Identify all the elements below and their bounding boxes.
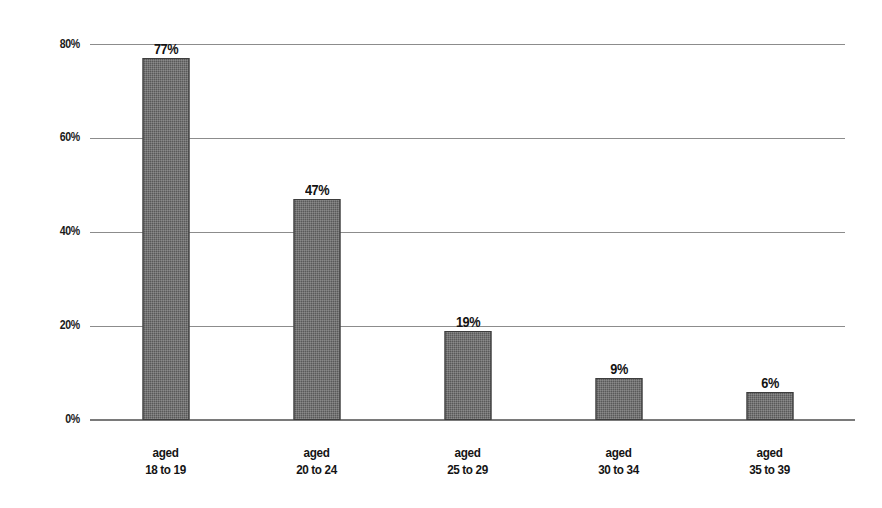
x-axis-label-line1: aged (551, 444, 687, 461)
bar-aged-35-to-39[interactable] (746, 392, 793, 420)
bar-slot-aged-20-to-24: 47% (241, 44, 392, 420)
x-axis-label-line1: aged (400, 444, 536, 461)
x-axis-label-line2: 18 to 19 (98, 461, 234, 478)
x-axis-label-aged-35-to-39: aged 35 to 39 (694, 444, 845, 478)
bar-value-text: 47% (305, 181, 329, 198)
bar-slot-aged-25-to-29: 19% (392, 44, 543, 420)
bar-value-label-aged-18-to-19: 77% (151, 40, 179, 57)
x-axis: aged 18 to 19 aged 20 to 24 aged 25 to 2… (90, 444, 845, 494)
y-axis-tick-label-80: 80% (36, 37, 80, 51)
y-axis-tick-label-60: 60% (36, 130, 80, 144)
bars-layer: 77% 47% 19% 9% 6% (90, 44, 845, 420)
bar-chart: 80% 60% 40% 20% 0% 77% 47% 19% (0, 0, 882, 508)
x-axis-label-aged-25-to-29: aged 25 to 29 (392, 444, 543, 478)
bar-aged-20-to-24[interactable] (293, 199, 340, 420)
y-axis-tick-label-0: 0% (36, 412, 80, 426)
x-axis-label-line2: 30 to 34 (551, 461, 687, 478)
bar-value-text: 6% (761, 374, 778, 391)
x-axis-label-line2: 25 to 29 (400, 461, 536, 478)
y-axis-tick-label-40: 40% (36, 224, 80, 238)
y-axis-tick-label-20: 20% (36, 318, 80, 332)
bar-value-label-aged-20-to-24: 47% (302, 181, 330, 198)
x-axis-label-line2: 35 to 39 (702, 461, 838, 478)
x-axis-label-aged-30-to-34: aged 30 to 34 (543, 444, 694, 478)
bar-slot-aged-35-to-39: 6% (694, 44, 845, 420)
x-axis-label-line1: aged (249, 444, 385, 461)
bar-slot-aged-18-to-19: 77% (90, 44, 241, 420)
bar-aged-25-to-29[interactable] (444, 331, 491, 420)
bar-value-text: 9% (610, 360, 627, 377)
x-axis-label-line1: aged (702, 444, 838, 461)
bar-aged-30-to-34[interactable] (595, 378, 642, 420)
bar-aged-18-to-19[interactable] (142, 58, 189, 420)
bar-value-label-aged-25-to-29: 19% (453, 313, 481, 330)
bar-value-label-aged-35-to-39: 6% (759, 374, 779, 391)
bar-slot-aged-30-to-34: 9% (543, 44, 694, 420)
bar-value-text: 77% (154, 40, 178, 57)
x-axis-label-aged-18-to-19: aged 18 to 19 (90, 444, 241, 478)
x-axis-label-aged-20-to-24: aged 20 to 24 (241, 444, 392, 478)
plot-area: 77% 47% 19% 9% 6% (90, 44, 845, 420)
x-axis-label-line1: aged (98, 444, 234, 461)
bar-value-text: 19% (456, 313, 480, 330)
x-axis-label-line2: 20 to 24 (249, 461, 385, 478)
bar-value-label-aged-30-to-34: 9% (608, 360, 628, 377)
